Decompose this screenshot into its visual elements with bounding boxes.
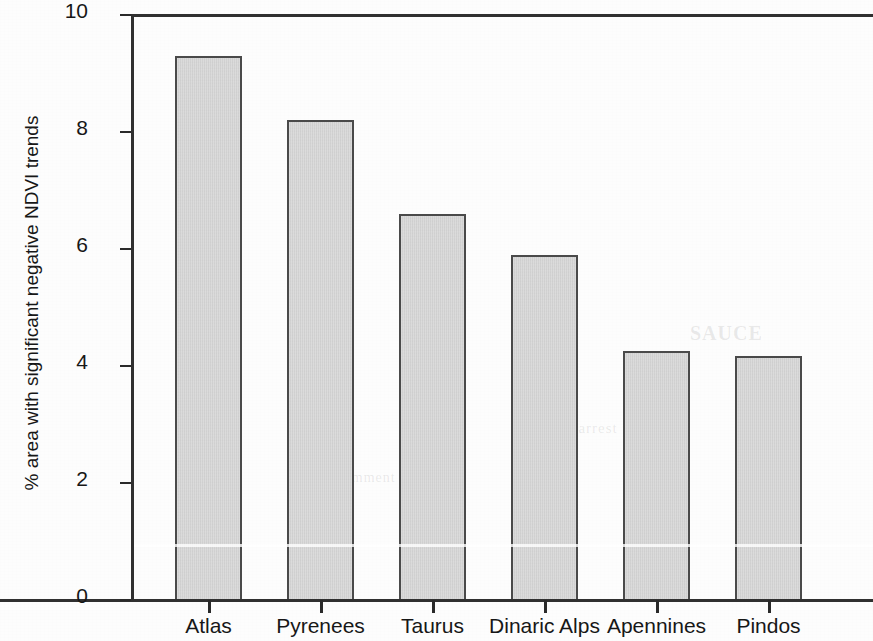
bar [399,214,466,600]
bar [175,56,242,600]
plot-area [131,15,873,600]
y-axis-tick-mark [120,365,131,367]
axis-line-top [131,14,873,17]
y-axis-tick-mark [120,482,131,484]
y-axis-tick-label: 6 [48,234,88,255]
x-axis-tick-label: Taurus [401,614,464,638]
bar [511,255,578,600]
y-axis-tick-mark [120,131,131,133]
bar [735,356,802,600]
x-axis-tick-mark [208,600,211,613]
y-axis-title: % area with significant negative NDVI tr… [21,63,43,543]
x-axis-tick-label: Pyrenees [276,614,365,638]
y-axis-tick-mark [120,248,131,250]
bar [287,120,354,600]
y-axis-tick-label: 4 [48,351,88,372]
x-axis-tick-label: Dinaric Alps [489,614,600,638]
x-axis-tick-labels: AtlasPyreneesTaurusDinaric AlpsApennines… [0,614,873,641]
x-axis-tick-mark [544,600,547,613]
y-axis-tick-label: 0 [48,585,88,606]
y-axis-tick-label: 8 [48,117,88,138]
y-axis-tick-label: 2 [48,468,88,489]
y-axis-tick-marks [120,0,132,641]
bar [623,351,690,600]
x-axis-tick-mark [432,600,435,613]
x-axis-tick-marks [0,600,873,614]
y-axis-tick-mark [120,14,131,16]
y-axis-tick-label: 10 [48,0,88,21]
x-axis-tick-mark [768,600,771,613]
x-axis-tick-mark [656,600,659,613]
x-axis-tick-label: Pindos [736,614,800,638]
x-axis-tick-label: Atlas [185,614,232,638]
x-axis-tick-label: Apennines [607,614,706,638]
x-axis-tick-mark [320,600,323,613]
y-axis-tick-labels: 0246810 [46,0,88,641]
bar-chart-figure: SAUCE in arrest t la comment and ti % ar… [0,0,873,641]
